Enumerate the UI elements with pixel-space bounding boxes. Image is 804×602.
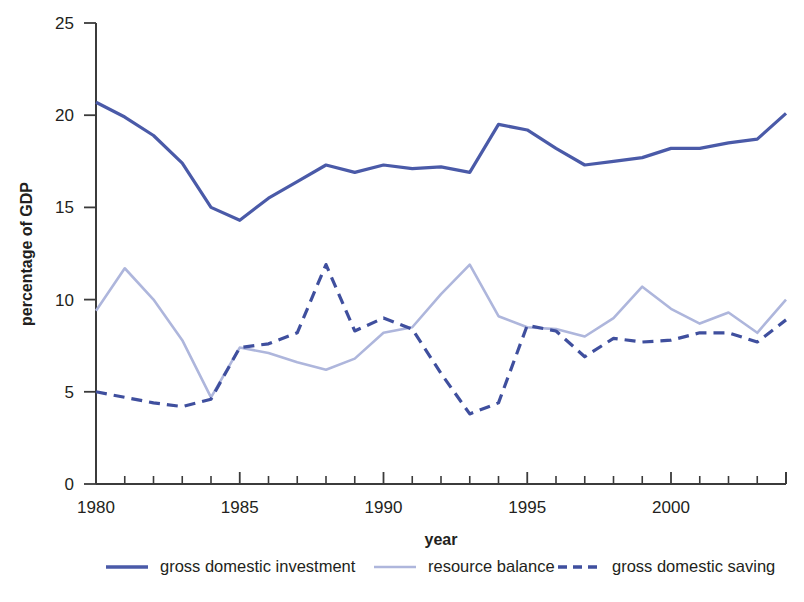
x-tick-label: 1980 xyxy=(77,498,115,517)
chart-legend: gross domestic investmentresource balanc… xyxy=(106,557,775,575)
legend-label: gross domestic investment xyxy=(160,557,356,575)
y-tick-label: 20 xyxy=(55,106,74,125)
y-tick-label: 15 xyxy=(55,198,74,217)
x-tick-label: 1995 xyxy=(508,498,546,517)
x-axis-tick-labels: 19801985199019952000 xyxy=(77,498,690,517)
y-tick-label: 25 xyxy=(55,14,74,33)
y-tick-label: 5 xyxy=(65,383,74,402)
y-axis-tick-marks xyxy=(84,23,96,484)
x-tick-label: 1985 xyxy=(221,498,259,517)
line-chart: 0510152025 19801985199019952000 percenta… xyxy=(0,0,804,602)
x-tick-label: 1990 xyxy=(365,498,403,517)
y-axis-tick-labels: 0510152025 xyxy=(55,14,74,494)
y-tick-label: 0 xyxy=(65,475,74,494)
chart-figure: 0510152025 19801985199019952000 percenta… xyxy=(0,0,804,602)
series-line xyxy=(96,265,786,414)
data-series-group xyxy=(96,102,786,414)
x-axis-title: year xyxy=(425,531,458,548)
series-line xyxy=(96,102,786,220)
x-tick-label: 2000 xyxy=(652,498,690,517)
legend-label: resource balance xyxy=(428,557,555,575)
x-axis-tick-marks xyxy=(96,472,786,484)
series-line xyxy=(96,265,786,398)
y-tick-label: 10 xyxy=(55,291,74,310)
y-axis-title: percentage of GDP xyxy=(18,182,35,326)
legend-label: gross domestic saving xyxy=(612,557,775,575)
